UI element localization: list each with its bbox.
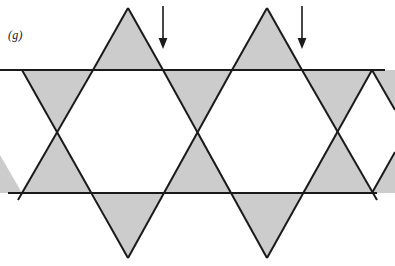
figure-container: (g) xyxy=(0,0,395,266)
hexagram-tessellation-diagram xyxy=(0,0,395,266)
panel-label: (g) xyxy=(8,28,23,43)
